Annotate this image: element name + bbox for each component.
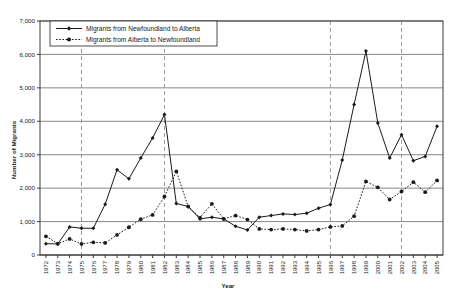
data-point: [174, 170, 178, 174]
legend-label-1: Migrants from Alberta to Newfoundland: [86, 36, 200, 44]
x-tick-label: 1975: [79, 260, 85, 274]
data-point: [293, 213, 297, 217]
x-tick-label: 1977: [102, 260, 108, 274]
data-point: [293, 228, 297, 232]
data-point: [435, 124, 439, 128]
data-point: [269, 214, 273, 218]
y-axis-title: Number of Migrants: [10, 120, 17, 179]
data-series: [44, 49, 439, 246]
chart-legend: Migrants from Newfoundland to AlbertaMig…: [50, 21, 217, 46]
x-tick-label: 2004: [422, 260, 428, 274]
x-tick-label: 1986: [209, 260, 215, 274]
legend-label-0: Migrants from Newfoundland to Alberta: [86, 25, 200, 33]
data-point: [198, 216, 202, 220]
data-point: [281, 227, 285, 231]
data-point: [163, 195, 167, 199]
x-tick-label: 1983: [174, 260, 180, 274]
data-point: [423, 190, 427, 194]
data-point: [411, 159, 415, 163]
data-point: [317, 206, 321, 210]
data-point: [435, 179, 439, 183]
x-tick-label: 1989: [245, 260, 251, 274]
migration-line-chart: 01,0002,0003,0004,0005,0006,0007,000 197…: [0, 0, 450, 296]
vertical-marker-lines: [81, 21, 401, 255]
series-line-0: [46, 51, 437, 244]
x-tick-label: 1982: [162, 260, 168, 274]
data-point: [269, 228, 273, 232]
y-tick-label: 0: [32, 251, 36, 258]
data-point: [151, 213, 155, 217]
data-point: [388, 198, 392, 202]
data-point: [103, 202, 107, 206]
data-point: [364, 180, 368, 184]
x-tick-label: 1972: [43, 260, 49, 274]
x-tick-label: 1991: [268, 260, 274, 274]
series-line-1: [46, 171, 437, 244]
x-tick-label: 1990: [256, 260, 262, 274]
x-tick-label: 1998: [351, 260, 357, 274]
x-tick-label: 1979: [126, 260, 132, 274]
y-tick-label: 4,000: [20, 117, 36, 124]
data-point: [210, 202, 214, 206]
data-point: [340, 224, 344, 228]
data-point: [281, 212, 285, 216]
data-point: [115, 233, 119, 237]
x-tick-label: 2000: [375, 260, 381, 274]
x-tick-label: 1997: [339, 260, 345, 274]
x-tick-label: 1995: [316, 260, 322, 274]
x-axis-title: Year: [221, 282, 235, 289]
x-tick-label: 1978: [114, 260, 120, 274]
x-tick-label: 1980: [138, 260, 144, 274]
data-point: [68, 237, 72, 241]
x-tick-label: 1988: [233, 260, 239, 274]
data-point: [305, 211, 309, 215]
data-point: [91, 240, 95, 244]
x-tick-label: 2001: [387, 260, 393, 274]
data-point: [91, 226, 95, 230]
data-point: [80, 242, 84, 246]
x-tick-label: 2003: [411, 260, 417, 274]
x-axis-tick-labels: 1972197319741975197619771978197919801981…: [43, 260, 440, 274]
data-point: [305, 229, 309, 233]
y-axis-tick-labels: 01,0002,0003,0004,0005,0006,0007,000: [20, 17, 36, 258]
data-point: [257, 227, 261, 231]
data-point: [317, 228, 321, 232]
x-tick-label: 1973: [55, 260, 61, 274]
x-tick-label: 1992: [280, 260, 286, 274]
x-tick-label: 2005: [434, 260, 440, 274]
data-point: [186, 205, 190, 209]
data-point: [400, 133, 404, 137]
y-tick-label: 3,000: [20, 151, 36, 158]
data-point: [234, 214, 238, 218]
x-tick-label: 1984: [185, 260, 191, 274]
data-point: [44, 242, 48, 246]
y-tick-label: 1,000: [20, 218, 36, 225]
x-tick-label: 1985: [197, 260, 203, 274]
data-point: [44, 234, 48, 238]
data-point: [352, 214, 356, 218]
y-tick-label: 5,000: [20, 84, 36, 91]
x-tick-label: 1976: [91, 260, 97, 274]
legend-marker-1: [67, 37, 71, 41]
x-tick-label: 1987: [221, 260, 227, 274]
chart-canvas: 01,0002,0003,0004,0005,0006,0007,000 197…: [0, 0, 450, 296]
data-point: [79, 226, 83, 230]
x-tick-label: 1981: [150, 260, 156, 274]
data-point: [222, 217, 226, 221]
data-point: [174, 202, 178, 206]
data-point: [246, 218, 250, 222]
data-point: [340, 158, 344, 162]
data-point: [388, 156, 392, 160]
data-point: [210, 215, 214, 219]
data-point: [162, 113, 166, 117]
data-point: [400, 190, 404, 194]
x-tick-label: 2002: [399, 260, 405, 274]
x-tick-label: 1996: [328, 260, 334, 274]
data-point: [364, 49, 368, 53]
y-tick-label: 2,000: [20, 184, 36, 191]
x-tick-label: 1999: [363, 260, 369, 274]
data-point: [352, 103, 356, 107]
data-point: [328, 225, 332, 229]
y-tick-label: 6,000: [20, 51, 36, 58]
y-tick-label: 7,000: [20, 17, 36, 24]
